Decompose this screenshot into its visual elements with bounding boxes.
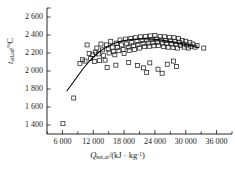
x-axis-label: Qnet,ar/(kJ · kg-1) [0,150,235,160]
data-point-marker [95,46,99,50]
y-tick-label: 2 600 [2,12,43,21]
data-point-marker [142,66,146,70]
data-point-marker [120,43,124,47]
data-point-marker [122,51,126,55]
data-point-marker [109,39,113,43]
data-point-marker [175,65,179,69]
y-tick-label: 2 000 [2,66,43,75]
x-axis-units-close: ) [142,150,145,160]
data-point-marker [85,43,89,47]
data-point-marker [160,71,164,75]
data-point-marker [121,47,125,51]
data-point-marker [61,122,65,126]
data-point-marker [83,59,87,63]
data-point-marker [156,67,160,71]
y-tick-label: 2 400 [2,30,43,39]
x-tick-label: 36 000 [197,137,235,146]
data-point-marker [106,47,110,51]
data-point-marker [102,54,106,58]
y-tick-label: 1 400 [2,120,43,129]
x-axis-units: /(kJ · kg [109,150,137,160]
data-point-marker [110,45,114,49]
data-point-marker [107,51,111,55]
data-point-marker [202,46,206,50]
figure-container: tad,ad/°C Qnet,ar/(kJ · kg-1) 1 4001 600… [0,0,235,172]
data-point-marker [72,96,76,100]
data-point-marker [97,59,101,63]
y-tick-label: 1 600 [2,102,43,111]
data-point-marker [145,70,149,74]
data-point-marker [135,64,139,68]
y-tick-label: 1 800 [2,84,43,93]
data-point-marker [171,59,175,63]
data-point-marker [99,42,103,46]
data-point-marker [105,65,109,69]
data-point-marker [127,60,131,64]
data-point-marker [148,61,152,65]
y-tick-label: 2 200 [2,48,43,57]
data-point-marker [165,62,169,66]
data-point-marker [114,63,118,67]
data-point-marker [103,58,107,62]
x-axis-subscript: net,ar [96,154,109,160]
